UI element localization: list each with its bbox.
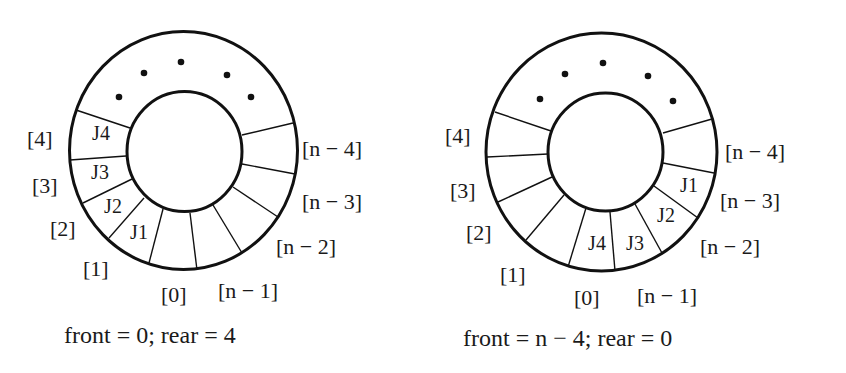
job-J2: J2: [657, 204, 675, 226]
caption-left: front = 0; rear = 4: [64, 322, 236, 348]
index-label-0: [0]: [161, 282, 187, 307]
job-J1: J1: [130, 221, 148, 243]
divider: [149, 209, 163, 263]
dot: [600, 60, 607, 67]
dot: [537, 96, 544, 103]
index-label-n-2: [n − 2]: [700, 234, 760, 259]
job-labels: J4 J3 J2 J1: [91, 122, 148, 243]
index-label-1: [1]: [83, 256, 109, 281]
dot: [141, 70, 148, 77]
divider: [663, 119, 712, 133]
circular-queue-right: J1 J2 J3 J4 [4] [3] [2] [1] [0] [n − 1] …: [445, 33, 785, 351]
job-J2: J2: [104, 195, 122, 217]
index-label-n-1: [n − 1]: [637, 283, 697, 308]
divider: [568, 208, 586, 267]
divider: [663, 163, 714, 173]
job-labels: J1 J2 J3 J4: [588, 174, 698, 254]
dot: [116, 94, 123, 101]
index-labels: [4] [3] [2] [1] [0] [n − 1] [n − 2] [n −…: [27, 126, 362, 307]
ellipsis-dots: [537, 60, 677, 105]
index-label-3: [3]: [450, 178, 476, 203]
divider: [213, 205, 242, 253]
divider: [242, 123, 293, 135]
inner-ring: [548, 93, 663, 211]
dot: [178, 59, 185, 66]
dot: [645, 73, 652, 80]
divider: [233, 187, 278, 217]
divider: [70, 156, 126, 160]
divider: [242, 164, 295, 174]
divider: [498, 177, 552, 202]
divider: [190, 213, 197, 270]
job-J3: J3: [626, 232, 644, 254]
index-label-4: [4]: [445, 123, 471, 148]
index-label-3: [3]: [32, 173, 58, 198]
index-label-0: [0]: [574, 285, 600, 310]
divider: [495, 112, 551, 131]
inner-ring: [127, 92, 242, 212]
index-label-n-2: [n − 2]: [276, 234, 336, 259]
index-label-n-1: [n − 1]: [218, 278, 278, 303]
job-J3: J3: [91, 161, 109, 183]
dot: [248, 94, 255, 101]
index-label-n-3: [n − 3]: [302, 189, 362, 214]
dot: [224, 72, 231, 79]
ellipsis-dots: [116, 59, 255, 101]
divider: [526, 195, 564, 240]
index-label-n-4: [n − 4]: [725, 139, 785, 164]
dot: [562, 71, 569, 78]
job-J1: J1: [680, 174, 698, 196]
divider: [610, 212, 615, 271]
circular-queue-left: J4 J3 J2 J1 [4] [3] [2] [1] [0] [n − 1] …: [27, 32, 362, 349]
index-labels: [4] [3] [2] [1] [0] [n − 1] [n − 2] [n −…: [445, 123, 785, 310]
outer-ring: [70, 32, 298, 270]
divider: [487, 154, 548, 157]
caption-right: front = n − 4; rear = 0: [463, 325, 672, 351]
index-label-n-3: [n − 3]: [720, 188, 780, 213]
dot: [670, 98, 677, 105]
index-label-1: [1]: [500, 262, 526, 287]
index-label-2: [2]: [466, 220, 492, 245]
circular-queue-figure: J4 J3 J2 J1 [4] [3] [2] [1] [0] [n − 1] …: [0, 0, 846, 373]
job-J4: J4: [92, 122, 110, 144]
job-J4: J4: [588, 232, 606, 254]
index-label-n-4: [n − 4]: [302, 136, 362, 161]
index-label-2: [2]: [50, 216, 76, 241]
index-label-4: [4]: [27, 126, 53, 151]
